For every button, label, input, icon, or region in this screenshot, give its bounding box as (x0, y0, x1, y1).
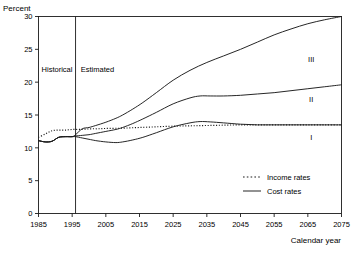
chart-legend: Income ratesCost rates (243, 173, 311, 196)
y-axis-ticks: 051015202530 (24, 12, 38, 218)
plot-area-border (39, 17, 342, 214)
x-tick-label: 1985 (30, 220, 47, 229)
annotation-historical: Historical (42, 65, 73, 74)
x-axis-ticks: 1985199520052015202520352045205520652075 (30, 214, 350, 229)
x-tick-label: 2055 (266, 220, 283, 229)
percent-vs-calendar-year-line-chart: 051015202530 198519952005201520252035204… (0, 0, 363, 261)
x-tick-label: 1995 (64, 220, 81, 229)
x-tick-label: 2025 (165, 220, 182, 229)
x-tick-label: 2005 (97, 220, 114, 229)
series-line-i (39, 122, 342, 143)
y-tick-label: 5 (28, 176, 32, 185)
series-lines (39, 17, 342, 143)
x-tick-label: 2065 (299, 220, 316, 229)
y-tick-label: 20 (24, 78, 32, 87)
x-axis-label: Calendar year (291, 236, 342, 245)
series-line-ii (39, 85, 342, 142)
x-tick-label: 2035 (198, 220, 215, 229)
legend-label-cost-rates: Cost rates (267, 187, 301, 196)
annotation-estimated: Estimated (81, 65, 114, 74)
y-tick-label: 15 (24, 111, 32, 120)
x-tick-label: 2045 (232, 220, 249, 229)
plot-frame (39, 17, 342, 214)
x-tick-label: 2015 (131, 220, 148, 229)
y-axis-label: Percent (3, 4, 31, 13)
x-tick-label: 2075 (333, 220, 350, 229)
y-tick-label: 0 (28, 209, 32, 218)
annotation-i: I (310, 133, 312, 142)
annotation-ii: II (309, 95, 313, 104)
y-tick-label: 10 (24, 144, 32, 153)
legend-label-income-rates: Income rates (267, 173, 311, 182)
annotation-iii: III (308, 55, 314, 64)
chart-figure: 051015202530 198519952005201520252035204… (0, 0, 363, 261)
y-tick-label: 25 (24, 45, 32, 54)
y-tick-label: 30 (24, 12, 32, 21)
